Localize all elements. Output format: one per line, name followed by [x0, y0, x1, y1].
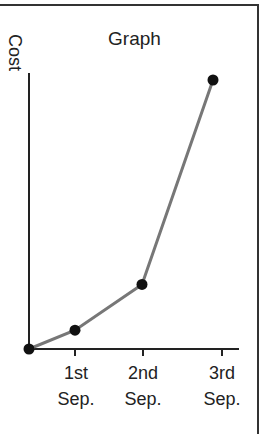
x-tick-label-2: 2nd Sep. — [113, 360, 173, 412]
x-tick-label-1: 1st Sep. — [46, 360, 106, 412]
x-tick-label-1-line2: Sep. — [46, 386, 106, 412]
series-line — [29, 80, 213, 349]
x-tick-label-2-line2: Sep. — [113, 386, 173, 412]
data-point-marker — [70, 325, 81, 336]
x-tick-label-3-line1: 3rd — [192, 360, 252, 386]
data-point-marker — [24, 344, 35, 355]
x-tick-label-3-line2: Sep. — [192, 386, 252, 412]
x-tick-label-3: 3rd Sep. — [192, 360, 252, 412]
x-tick-label-1-line1: 1st — [46, 360, 106, 386]
data-point-marker — [208, 75, 219, 86]
x-tick-label-2-line1: 2nd — [113, 360, 173, 386]
series-markers — [24, 75, 219, 355]
data-point-marker — [137, 279, 148, 290]
